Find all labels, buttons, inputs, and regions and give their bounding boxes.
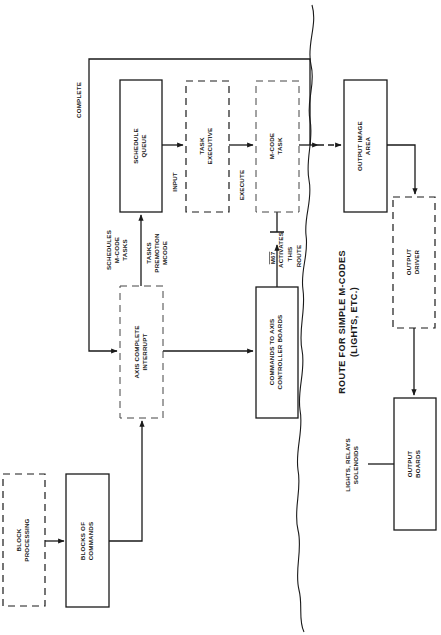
svg-text:QUEUE: QUEUE (140, 134, 147, 157)
svg-text:SCHEDULES: SCHEDULES (105, 230, 112, 270)
output-image-area-box: OUTPUT IMAGE AREA (344, 80, 387, 212)
blocks-of-commands-box: BLOCKS OF COMMANDS (66, 474, 109, 607)
schedule-queue-box: SCHEDULE QUEUE (120, 80, 162, 212)
tasks-premotion-mcode-label: TASKS PREMOTION MCODE (145, 233, 168, 273)
task-executive-box: TASK EXECUTIVE (186, 81, 229, 212)
output-driver-box: OUTPUT DRIVER (393, 197, 435, 328)
axis-complete-interrupt-box: AXIS COMPLETE INTERRUPT (120, 286, 163, 418)
svg-text:COMMANDS: COMMANDS (87, 522, 94, 561)
svg-text:MCODE: MCODE (161, 241, 168, 265)
svg-text:SCHEDULE: SCHEDULE (132, 128, 139, 164)
m67-activates-route-label: M67 ACTIVATES THIS ROUTE (269, 232, 302, 268)
svg-text:BOARDS: BOARDS (414, 450, 421, 478)
svg-text:DRIVER: DRIVER (413, 249, 420, 274)
svg-text:TASK: TASK (276, 137, 283, 155)
m-code-task-box: M-CODE TASK (256, 81, 299, 212)
arrow-blocks-to-interrupt (109, 421, 142, 541)
route-for-simple-m-codes-label: ROUTE FOR SIMPLE M-CODES (LIGHTS, ETC.) (337, 250, 359, 394)
svg-text:AXIS COMPLETE: AXIS COMPLETE (133, 325, 140, 378)
svg-text:ROUTE FOR SIMPLE M-CODES: ROUTE FOR SIMPLE M-CODES (337, 250, 347, 394)
svg-text:(LIGHTS, ETC.): (LIGHTS, ETC.) (349, 287, 359, 357)
svg-text:LIGHTS, RELAYS: LIGHTS, RELAYS (344, 438, 351, 491)
commands-to-axis-box: COMMANDS TO AXIS CONTROLLER BOARDS (256, 287, 298, 418)
m67-route-line (270, 212, 284, 232)
svg-text:ROUTE: ROUTE (295, 245, 302, 268)
svg-text:M67: M67 (269, 251, 276, 264)
arrow-image-to-driver (387, 145, 415, 194)
svg-text:EXECUTIVE: EXECUTIVE (206, 128, 213, 165)
complete-label: COMPLETE (75, 82, 82, 118)
svg-text:COMMANDS TO AXIS: COMMANDS TO AXIS (268, 319, 275, 385)
svg-text:PREMOTION: PREMOTION (153, 233, 160, 273)
svg-text:BLOCKS OF: BLOCKS OF (79, 522, 86, 560)
svg-text:INTERRUPT: INTERRUPT (141, 333, 148, 370)
svg-text:PROCESSING: PROCESSING (23, 518, 30, 561)
svg-text:M-CODE: M-CODE (268, 133, 275, 159)
m-code-flow-diagram: BLOCK PROCESSING BLOCKS OF COMMANDS AXIS… (0, 0, 441, 635)
output-boards-box: OUTPUT BOARDS (394, 398, 436, 530)
svg-text:M-CODE: M-CODE (113, 237, 120, 263)
svg-text:AREA: AREA (364, 137, 371, 156)
svg-text:OUTPUT IMAGE: OUTPUT IMAGE (356, 121, 363, 171)
svg-text:CONTROLLER BOARDS: CONTROLLER BOARDS (276, 315, 283, 390)
lights-relays-solenoids-label: LIGHTS, RELAYS SOLENOIDS (344, 438, 359, 491)
svg-text:TASKS: TASKS (145, 242, 152, 264)
svg-text:OUTPUT: OUTPUT (406, 451, 413, 478)
execute-label: EXECUTE (238, 170, 245, 201)
svg-text:THIS: THIS (286, 247, 293, 262)
svg-text:BLOCK: BLOCK (15, 528, 22, 551)
svg-text:ACTIVATES: ACTIVATES (277, 232, 284, 268)
svg-text:TASK: TASK (198, 137, 205, 155)
input-label: INPUT (171, 172, 178, 192)
block-processing-box: BLOCK PROCESSING (3, 474, 45, 606)
svg-text:TASKS: TASKS (121, 239, 128, 261)
schedules-m-code-tasks-label: SCHEDULES M-CODE TASKS (105, 230, 128, 270)
svg-text:SOLENOIDS: SOLENOIDS (352, 446, 359, 484)
svg-text:OUTPUT: OUTPUT (405, 249, 412, 276)
